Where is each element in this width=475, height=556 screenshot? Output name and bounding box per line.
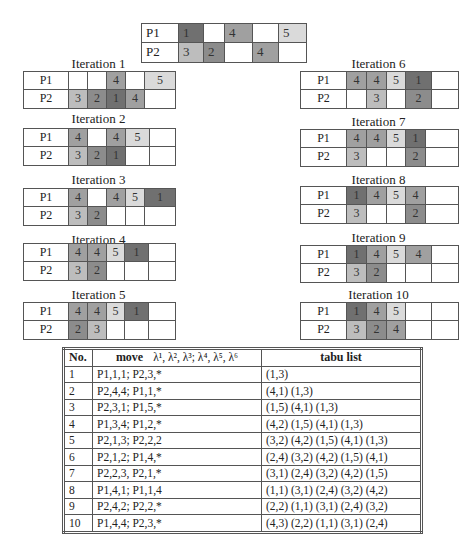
iteration-7-title: Iteration 7 bbox=[300, 115, 457, 129]
job-block-4: 4 bbox=[69, 129, 88, 146]
job-block-2: 2 bbox=[88, 147, 107, 165]
cell-tabu-list: (2,2) (1,1) (3,1) (2,4) (3,2) bbox=[262, 498, 422, 515]
iteration-6-title: Iteration 6 bbox=[300, 57, 457, 71]
job-block-3: 3 bbox=[347, 205, 367, 223]
job-block-4: 4 bbox=[107, 129, 126, 146]
iteration-7-gantt: P14451P232 bbox=[300, 129, 459, 167]
processor-row-p2: P2324 bbox=[301, 321, 458, 339]
processor-row-p2: P23214 bbox=[24, 90, 175, 108]
job-block-2: 2 bbox=[88, 207, 107, 225]
processor-label: P2 bbox=[24, 90, 69, 108]
cell-no: 9 bbox=[64, 498, 93, 515]
idle-slot bbox=[406, 303, 432, 320]
job-block-4: 4 bbox=[107, 189, 126, 206]
cell-move: P2,1,2; P1,4,* bbox=[93, 449, 262, 466]
idle-slot bbox=[432, 321, 458, 339]
header-move: moveλ¹, λ², λ³; λ⁴, λ⁵, λ⁶ bbox=[93, 349, 262, 367]
idle-slot bbox=[88, 129, 107, 146]
job-block-3: 3 bbox=[88, 321, 107, 339]
idle-slot bbox=[432, 264, 458, 282]
processor-row-p2: P232 bbox=[301, 205, 458, 223]
processor-row-p1: P14451 bbox=[24, 244, 175, 262]
idle-slot bbox=[432, 90, 458, 108]
job-block-5: 5 bbox=[387, 187, 406, 204]
iteration-10-title: Iteration 10 bbox=[300, 288, 457, 302]
job-block-4: 4 bbox=[88, 244, 107, 261]
idle-slot bbox=[426, 205, 458, 223]
idle-slot bbox=[149, 321, 175, 339]
idle-slot bbox=[426, 148, 458, 166]
job-block-4: 4 bbox=[69, 303, 88, 320]
job-block-1: 1 bbox=[406, 130, 426, 147]
cell-move: P1,4,1; P1,1,4 bbox=[93, 482, 262, 499]
processor-label: P2 bbox=[24, 207, 69, 225]
processor-label: P2 bbox=[301, 264, 347, 282]
processor-label: P1 bbox=[24, 303, 69, 320]
table-row: 7P2,2,3, P2,1,*(3,1) (2,4) (3,2) (4,2) (… bbox=[64, 465, 422, 482]
processor-label: P2 bbox=[301, 205, 347, 223]
job-block-1: 1 bbox=[145, 189, 175, 206]
idle-slot bbox=[253, 24, 279, 42]
iteration-3-title: Iteration 3 bbox=[23, 173, 174, 187]
processor-row-p1: P11454 bbox=[301, 246, 458, 264]
cell-tabu-list: (3,2) (4,2) (1,5) (4,1) (1,3) bbox=[262, 432, 422, 449]
job-block-4: 4 bbox=[347, 72, 367, 89]
processor-row-p2: P232 bbox=[301, 90, 458, 108]
table-row: 9P2,4,2; P2,2,*(2,2) (1,1) (3,1) (2,4) (… bbox=[64, 498, 422, 515]
job-block-5: 5 bbox=[387, 303, 406, 320]
cell-move: P1,4,4; P2,3,* bbox=[93, 515, 262, 533]
cell-tabu-list: (2,4) (3,2) (4,2) (1,5) (4,1) bbox=[262, 449, 422, 466]
idle-slot bbox=[150, 129, 175, 146]
job-block-5: 5 bbox=[126, 189, 145, 206]
job-block-3: 3 bbox=[347, 148, 367, 166]
processor-label: P1 bbox=[301, 72, 347, 89]
table-body: 1P1,1,1; P2,3,*(1,3)2P2,4,4; P1,1,*(4,1)… bbox=[64, 366, 422, 532]
header-tabu-list: tabu list bbox=[262, 349, 422, 367]
table-row: 3P2,3,1; P1,5,*(1,5) (4,1) (1,3) bbox=[64, 399, 422, 416]
tabu-search-table: No. moveλ¹, λ², λ³; λ⁴, λ⁵, λ⁶ tabu list… bbox=[62, 347, 423, 534]
idle-slot bbox=[426, 130, 458, 147]
job-block-2: 2 bbox=[88, 90, 107, 108]
job-block-1: 1 bbox=[347, 303, 367, 320]
idle-slot bbox=[107, 321, 125, 339]
processor-row-p1: P14451 bbox=[301, 130, 458, 148]
cell-tabu-list: (4,3) (2,2) (1,1) (3,1) (2,4) bbox=[262, 515, 422, 533]
idle-slot bbox=[367, 148, 387, 166]
processor-row-p1: P1145 bbox=[301, 303, 458, 321]
job-block-4: 4 bbox=[367, 187, 387, 204]
cell-tabu-list: (3,1) (2,4) (3,2) (4,2) (1,5) bbox=[262, 465, 422, 482]
processor-row-p1: P145 bbox=[24, 72, 175, 90]
processor-label: P2 bbox=[24, 262, 69, 280]
job-block-5: 5 bbox=[126, 129, 150, 146]
idle-slot bbox=[387, 205, 406, 223]
iteration-4-gantt: P14451P232 bbox=[23, 243, 176, 281]
cell-tabu-list: (4,1) (1,3) bbox=[262, 383, 422, 400]
job-block-1: 1 bbox=[406, 72, 432, 89]
idle-slot bbox=[107, 207, 126, 225]
job-block-3: 3 bbox=[69, 207, 88, 225]
job-block-4: 4 bbox=[367, 130, 387, 147]
iteration-10-gantt: P1145P2324 bbox=[300, 302, 459, 340]
job-block-3: 3 bbox=[347, 321, 367, 339]
job-block-2: 2 bbox=[406, 148, 426, 166]
processor-row-p1: P11454 bbox=[301, 187, 458, 205]
job-block-4: 4 bbox=[387, 321, 406, 339]
job-block-4: 4 bbox=[367, 303, 387, 320]
processor-label: P1 bbox=[301, 246, 347, 263]
job-block-1: 1 bbox=[107, 90, 126, 108]
job-block-1: 1 bbox=[125, 303, 149, 320]
cell-no: 2 bbox=[64, 383, 93, 400]
processor-row-p1: P14451 bbox=[24, 303, 175, 321]
iteration-8-gantt: P11454P232 bbox=[300, 186, 459, 224]
cell-no: 5 bbox=[64, 432, 93, 449]
idle-slot bbox=[204, 24, 225, 42]
processor-label: P2 bbox=[301, 148, 347, 166]
idle-slot bbox=[406, 321, 432, 339]
idle-slot bbox=[387, 90, 406, 108]
idle-slot bbox=[88, 72, 107, 89]
job-block-3: 3 bbox=[69, 147, 88, 165]
idle-slot bbox=[387, 148, 406, 166]
processor-label: P1 bbox=[24, 129, 69, 146]
job-block-3: 3 bbox=[69, 90, 88, 108]
idle-slot bbox=[387, 264, 406, 282]
